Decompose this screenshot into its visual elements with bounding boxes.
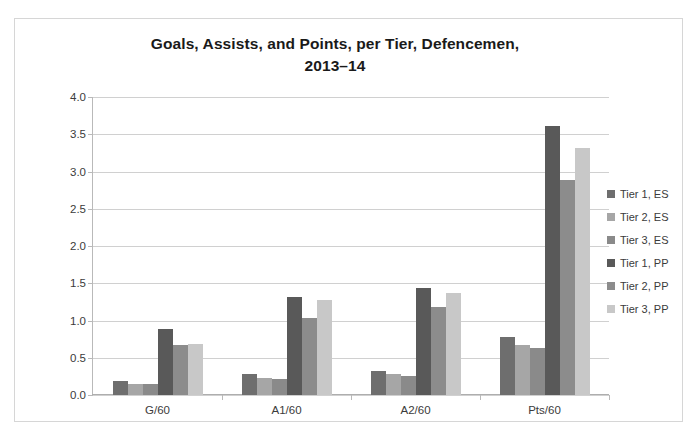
bar-groups: G/60A1/60A2/60Pts/60 [93, 97, 609, 395]
legend-swatch-icon [607, 213, 615, 221]
bar[interactable] [545, 126, 560, 395]
bar[interactable] [416, 288, 431, 395]
chart-title-line-1: Goals, Assists, and Points, per Tier, De… [55, 33, 615, 55]
y-axis-tick-label: 0.5 [70, 352, 86, 364]
bar[interactable] [575, 148, 590, 395]
bar[interactable] [128, 384, 143, 395]
x-axis-tick-label: A1/60 [222, 404, 351, 416]
legend-swatch-icon [607, 282, 615, 290]
bar-group: A2/60 [351, 97, 480, 395]
chart-container: Goals, Assists, and Points, per Tier, De… [14, 18, 683, 422]
chart-legend: Tier 1, ESTier 2, ESTier 3, ESTier 1, PP… [607, 188, 669, 315]
legend-item[interactable]: Tier 3, PP [607, 303, 669, 315]
legend-swatch-icon [607, 259, 615, 267]
legend-label: Tier 1, ES [620, 188, 669, 200]
bar-group-bars [222, 97, 351, 395]
plot-area: 0.00.51.01.52.02.53.03.54.0 G/60A1/60A2/… [93, 97, 609, 395]
bar-group-bars [480, 97, 609, 395]
legend-item[interactable]: Tier 2, PP [607, 280, 669, 292]
bar-group: A1/60 [222, 97, 351, 395]
y-axis-tick-label: 2.0 [70, 240, 86, 252]
bar[interactable] [371, 371, 386, 395]
legend-item[interactable]: Tier 3, ES [607, 234, 669, 246]
y-axis-tick-label: 2.5 [70, 203, 86, 215]
x-tick-mark [351, 395, 352, 400]
bar[interactable] [386, 374, 401, 395]
bar[interactable] [560, 180, 575, 395]
x-axis-tick-label: A2/60 [351, 404, 480, 416]
y-axis-tick-label: 1.0 [70, 315, 86, 327]
legend-item[interactable]: Tier 2, ES [607, 211, 669, 223]
bar[interactable] [272, 379, 287, 395]
bar-group-bars [351, 97, 480, 395]
y-axis-tick-label: 3.5 [70, 128, 86, 140]
bar[interactable] [515, 345, 530, 395]
chart-title: Goals, Assists, and Points, per Tier, De… [55, 33, 615, 77]
y-tick-mark [88, 395, 93, 396]
bar[interactable] [287, 297, 302, 395]
legend-label: Tier 1, PP [620, 257, 669, 269]
bar-group-bars [93, 97, 222, 395]
bar[interactable] [143, 384, 158, 395]
legend-item[interactable]: Tier 1, ES [607, 188, 669, 200]
x-axis-tick-label: Pts/60 [480, 404, 609, 416]
bar[interactable] [302, 318, 317, 395]
y-axis-tick-label: 1.5 [70, 277, 86, 289]
legend-swatch-icon [607, 305, 615, 313]
bar[interactable] [401, 376, 416, 395]
bar[interactable] [113, 381, 128, 395]
chart-title-line-2: 2013–14 [55, 55, 615, 77]
bar[interactable] [530, 348, 545, 395]
legend-label: Tier 3, PP [620, 303, 669, 315]
bar[interactable] [188, 344, 203, 395]
y-axis-tick-label: 3.0 [70, 166, 86, 178]
legend-item[interactable]: Tier 1, PP [607, 257, 669, 269]
bar[interactable] [317, 300, 332, 395]
legend-label: Tier 2, PP [620, 280, 669, 292]
bar[interactable] [242, 374, 257, 395]
x-tick-mark [609, 395, 610, 400]
x-tick-mark [222, 395, 223, 400]
legend-label: Tier 2, ES [620, 211, 669, 223]
bar[interactable] [173, 345, 188, 395]
bar[interactable] [257, 378, 272, 395]
x-tick-mark [480, 395, 481, 400]
x-axis-tick-label: G/60 [93, 404, 222, 416]
bar[interactable] [500, 337, 515, 395]
legend-swatch-icon [607, 236, 615, 244]
bar[interactable] [446, 293, 461, 395]
legend-label: Tier 3, ES [620, 234, 669, 246]
bar-group: Pts/60 [480, 97, 609, 395]
bar-group: G/60 [93, 97, 222, 395]
y-axis-tick-label: 4.0 [70, 91, 86, 103]
bar[interactable] [431, 307, 446, 395]
bar[interactable] [158, 329, 173, 395]
y-axis-tick-label: 0.0 [70, 389, 86, 401]
legend-swatch-icon [607, 190, 615, 198]
